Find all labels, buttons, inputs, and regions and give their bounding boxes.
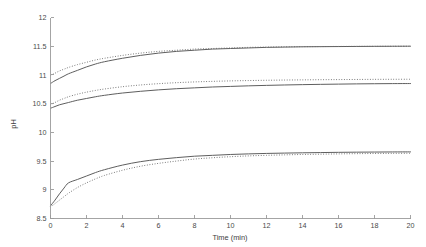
y-tick-label: 11 xyxy=(39,71,46,80)
x-tick-label: 18 xyxy=(371,221,379,230)
x-tick-label: 4 xyxy=(121,221,125,230)
x-tick-label: 2 xyxy=(85,221,89,230)
x-tick-label: 12 xyxy=(263,221,271,230)
x-axis-title: Time (min) xyxy=(212,233,247,242)
y-tick-label: 9 xyxy=(43,185,47,194)
y-axis-title: pH xyxy=(9,119,18,128)
figure-container: 8.599.51010.51111.512 02468101214161820 … xyxy=(0,0,426,247)
x-tick-label: 8 xyxy=(193,221,197,230)
x-tick-label: 20 xyxy=(407,221,415,230)
y-tick-label: 11.5 xyxy=(33,42,46,51)
x-tick-label: 0 xyxy=(49,221,53,230)
x-tick-label: 14 xyxy=(299,221,307,230)
x-tick-label: 6 xyxy=(157,221,161,230)
y-tick-label: 10 xyxy=(39,128,47,137)
ph-vs-time-line-chart: 8.599.51010.51111.512 02468101214161820 … xyxy=(0,0,426,247)
y-tick-label: 10.5 xyxy=(33,99,47,108)
y-tick-label: 12 xyxy=(39,13,47,22)
x-tick-label: 16 xyxy=(335,221,343,230)
y-tick-label: 8.5 xyxy=(37,214,47,223)
x-tick-label: 10 xyxy=(227,221,235,230)
chart-background xyxy=(0,0,426,247)
y-tick-label: 9.5 xyxy=(37,157,47,166)
